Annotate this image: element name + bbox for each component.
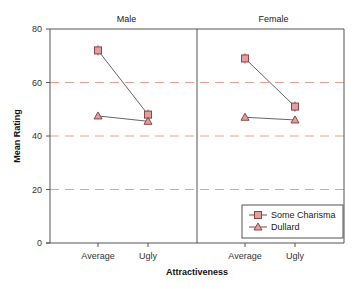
y-tick-label: 40 [32,131,42,141]
x-tick-label: Ugly [139,251,158,261]
triangle-marker-icon [94,112,102,119]
square-marker-icon [255,212,262,219]
x-tick-label: Average [81,251,114,261]
x-tick-label: Ugly [286,251,305,261]
square-marker-icon [95,47,102,54]
x-axis-title: Attractiveness [166,267,228,277]
series-line [245,117,295,120]
interaction-chart: 020406080 AverageUglyAverageUgly MaleFem… [0,0,357,289]
y-tick-label: 0 [37,238,42,248]
x-axis: AverageUglyAverageUgly [81,243,304,261]
legend-label: Dullard [271,222,300,232]
square-marker-icon [242,55,249,62]
y-tick-label: 80 [32,24,42,34]
legend: Some CharismaDullard [242,205,343,238]
legend-label: Some Charisma [271,210,336,220]
y-axis: 020406080 [32,24,50,248]
y-axis-title: Mean Rating [12,109,22,163]
series-line [98,116,148,121]
y-tick-label: 20 [32,185,42,195]
panel-titles: MaleFemale [117,14,289,24]
x-tick-label: Average [228,251,261,261]
y-tick-label: 60 [32,78,42,88]
square-marker-icon [292,103,299,110]
triangle-marker-icon [241,113,249,120]
panel-title: Female [258,14,288,24]
panel-title: Male [117,14,137,24]
